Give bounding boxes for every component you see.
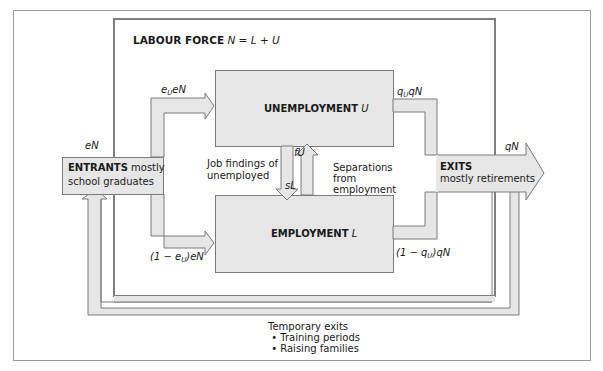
labour-force-title: LABOUR FORCE N = L + U bbox=[133, 34, 280, 46]
temporary-exits-label: Temporary exits • Training periods • Rai… bbox=[268, 321, 360, 354]
job-findings-symbol: fU bbox=[294, 147, 305, 159]
flow-label-to-employment: (1 − eU)eN bbox=[150, 251, 204, 266]
unemployment-exit-arrow bbox=[393, 99, 437, 155]
job-findings-label: Job findings ofunemployed bbox=[207, 158, 278, 182]
employment-label: EMPLOYMENT L bbox=[271, 228, 357, 240]
entrants-to-employment-arrow bbox=[151, 194, 214, 255]
employment-exit-arrow bbox=[393, 192, 437, 239]
separations-symbol: sL bbox=[285, 180, 296, 192]
flow-label-entrants-total: eN bbox=[85, 140, 99, 152]
unemployment-label: UNEMPLOYMENT U bbox=[264, 103, 369, 115]
flow-label-exits-total: qN bbox=[505, 141, 519, 153]
flow-label-from-unemployment: qUqN bbox=[397, 86, 422, 101]
entrants-label: ENTRANTS mostly school graduates bbox=[68, 161, 165, 189]
exits-label: EXITSmostly retirements bbox=[440, 161, 535, 185]
labour-force-bottom-band bbox=[114, 296, 495, 302]
entrants-split-arrow bbox=[151, 93, 214, 157]
flow-label-to-unemployment: eUeN bbox=[161, 84, 186, 99]
flow-label-from-employment: (1 − qU)qN bbox=[396, 247, 450, 262]
separations-label: Separationsfromemployment bbox=[333, 162, 396, 195]
